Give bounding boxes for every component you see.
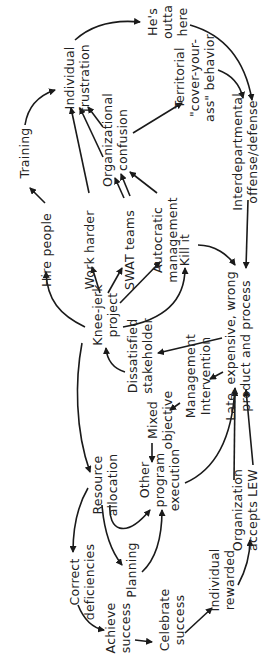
edge-kneejerk-swat xyxy=(108,268,122,293)
edge-interdept-late xyxy=(246,200,248,268)
edge-achieve-celebrate xyxy=(135,640,152,642)
node-late-expensive: Late, expensive, wrongproduct and proces… xyxy=(223,271,253,421)
node-interdepartmental: Interdepartmentaloffense/defense xyxy=(230,93,260,211)
node-celebrate-success: Celebratesuccess xyxy=(157,589,187,652)
edge-killit-late xyxy=(198,245,235,265)
edge-resource-correct xyxy=(73,488,88,552)
node-work-harder: Work harder xyxy=(82,210,97,290)
node-territorial: Territorial"cover-your-ass" behavior xyxy=(172,33,217,122)
node-swat-teams: SWAT teams xyxy=(122,210,137,290)
edge-hire-training xyxy=(30,188,45,203)
nodes: TrainingHire peopleIndividualfrustration… xyxy=(17,5,260,653)
edge-planning-other xyxy=(142,510,162,572)
node-other-program-execution: Otherprogramexecution xyxy=(137,449,182,512)
node-planning: Planning xyxy=(124,542,139,597)
node-individual-rewarded: Individualrewarded xyxy=(207,549,237,612)
edge-dissatisfied-kneejerk xyxy=(106,348,125,372)
node-hire-people: Hire people xyxy=(39,213,54,287)
node-organizational-confusion: Organizationalconfusion xyxy=(100,93,130,187)
node-autocratic-management: Autocraticmanagement xyxy=(150,197,180,283)
edge-kneejerk-resource xyxy=(77,343,90,472)
node-individual-frustration: Individualfrustration xyxy=(62,44,92,112)
node-resource-allocation: Resourceallocation xyxy=(90,454,120,517)
node-hes-outta-here: He'souttahere xyxy=(145,5,190,39)
node-kill-it: Kill it xyxy=(177,234,192,266)
flow-diagram: TrainingHire peopleIndividualfrustration… xyxy=(0,0,269,654)
edge-training-frustration xyxy=(25,90,55,125)
edge-autocratic-confusion xyxy=(130,172,157,193)
node-training: Training xyxy=(17,128,32,180)
node-knee-jerk-project: Knee-jerkproject xyxy=(90,284,120,346)
edge-swat-confusion1 xyxy=(115,178,124,198)
node-correct-deficiencies: Correctdeficiencies xyxy=(67,544,97,620)
node-organization-accepts-lew: Organizationaccepts LEW xyxy=(230,469,260,551)
node-dissatisfied-stakeholder: Dissatisfiedstakeholder xyxy=(125,318,155,394)
node-mixed-objective: Mixedobjective xyxy=(145,390,175,449)
node-achieve-success: Achievesuccess xyxy=(103,603,133,654)
edge-frustration-outta xyxy=(75,21,140,40)
node-management-intervention: ManagementIntervention xyxy=(183,334,213,418)
